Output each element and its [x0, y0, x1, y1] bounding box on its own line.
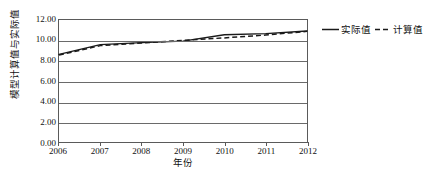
y-tick-label: 12.00 — [18, 15, 56, 24]
chart-figure: 模型计算值与实际值 0.002.004.006.008.0010.0012.00… — [0, 0, 431, 183]
x-tick-mark — [183, 142, 184, 146]
legend-label-computed: 计算值 — [393, 24, 423, 35]
x-tick-mark — [100, 142, 101, 146]
series-line-computed — [59, 31, 307, 55]
series-line-actual — [59, 31, 307, 54]
x-tick-label: 2011 — [246, 146, 286, 156]
y-tick-label: 6.00 — [18, 77, 56, 86]
x-tick-label: 2009 — [163, 146, 203, 156]
gridline — [59, 61, 307, 62]
y-tick-label: 8.00 — [18, 56, 56, 65]
x-axis-title: 年份 — [58, 157, 308, 168]
dashed-line-icon — [374, 26, 391, 33]
x-tick-label: 2007 — [80, 146, 120, 156]
legend-item-computed: 计算值 — [374, 24, 423, 35]
y-tick-label: 10.00 — [18, 35, 56, 44]
x-tick-label: 2008 — [121, 146, 161, 156]
gridline — [59, 41, 307, 42]
legend-item-actual: 实际值 — [322, 24, 371, 35]
y-tick-label: 2.00 — [18, 118, 56, 127]
x-tick-label: 2006 — [38, 146, 78, 156]
x-tick-mark — [141, 142, 142, 146]
gridline — [59, 123, 307, 124]
gridline — [59, 103, 307, 104]
x-tick-mark — [58, 142, 59, 146]
x-tick-label: 2012 — [288, 146, 328, 156]
x-tick-mark — [308, 142, 309, 146]
chart-legend: 实际值 计算值 — [322, 24, 423, 35]
x-tick-label: 2010 — [205, 146, 245, 156]
legend-label-actual: 实际值 — [341, 24, 371, 35]
solid-line-icon — [322, 26, 339, 33]
plot-area — [58, 19, 308, 143]
x-tick-mark — [225, 142, 226, 146]
y-tick-label: 4.00 — [18, 97, 56, 106]
gridline — [59, 82, 307, 83]
x-tick-mark — [266, 142, 267, 146]
